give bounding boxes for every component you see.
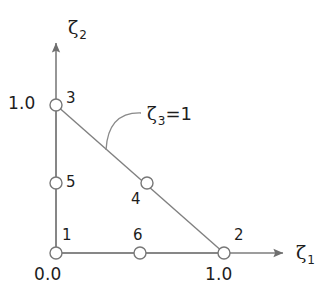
node-marker-2[interactable] (218, 247, 230, 259)
node-marker-6[interactable] (134, 247, 146, 259)
node-marker-4[interactable] (141, 177, 153, 189)
figure-canvas: ζ2 ζ1 ζ3=1 0.0 1.0 1.0 1 2 3 4 5 6 (0, 0, 328, 301)
x-axis-subscript: 1 (306, 253, 315, 267)
node-label-4: 4 (131, 192, 141, 207)
diagram-svg (0, 0, 328, 301)
zeta3-symbol: ζ (147, 103, 157, 124)
annotation-leader-line (106, 113, 141, 150)
y-one-tick-label: 1.0 (8, 95, 36, 112)
x-origin-tick-label: 0.0 (34, 266, 62, 283)
y-axis-subscript: 2 (78, 28, 87, 42)
y-axis-symbol: ζ (68, 16, 78, 38)
x-one-tick-label: 1.0 (205, 266, 233, 283)
zeta3-value: =1 (165, 103, 192, 124)
node-label-2: 2 (234, 228, 244, 243)
x-axis-symbol: ζ (296, 241, 306, 263)
axis-group (56, 43, 283, 253)
node-label-1: 1 (62, 228, 72, 243)
y-axis-label: ζ2 (68, 18, 87, 41)
node-label-3: 3 (66, 91, 76, 106)
node-marker-5[interactable] (50, 177, 62, 189)
node-label-6: 6 (133, 228, 143, 243)
node-marker-3[interactable] (50, 99, 62, 111)
node-marker-1[interactable] (50, 247, 62, 259)
x-axis-label: ζ1 (296, 243, 315, 266)
zeta3-annotation-label: ζ3=1 (147, 105, 192, 127)
node-label-5: 5 (66, 175, 76, 190)
